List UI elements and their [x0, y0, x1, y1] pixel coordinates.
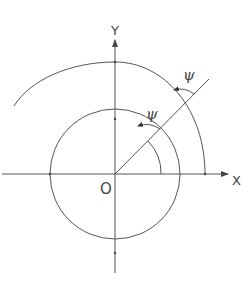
- radius-line: [115, 79, 209, 174]
- point-marker: [114, 118, 116, 120]
- point-marker: [114, 252, 116, 254]
- point-marker: [204, 173, 206, 175]
- inner-psi-label: ψ: [146, 105, 158, 123]
- inner-psi-arc: [138, 125, 160, 129]
- point-marker: [114, 61, 116, 63]
- spiral-diagram: Y X O ψ ψ: [0, 0, 249, 288]
- outer-psi-label: ψ: [183, 66, 195, 84]
- x-axis-label: X: [232, 173, 241, 188]
- origin-label: O: [100, 180, 112, 198]
- y-axis-label: Y: [110, 23, 119, 38]
- polar-angle-arc: [148, 141, 161, 174]
- spiral-curve: [14, 62, 205, 174]
- point-marker: [49, 173, 51, 175]
